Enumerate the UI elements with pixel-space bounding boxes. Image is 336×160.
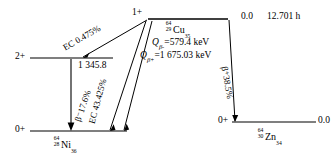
parent-element-symbol: Cu (173, 24, 185, 35)
right-daughter-za: 6430 (256, 129, 265, 140)
right-ground-energy: 0.0 (318, 116, 330, 126)
left-ground-spin-parity: 0+ (15, 125, 25, 135)
parent-nuclide-label: 6429Cu35 (164, 22, 190, 37)
left-daughter-za: 6428 (52, 137, 61, 148)
q-beta-minus-subscript: β- (159, 43, 164, 50)
q-beta-minus-value: =579.4 keV (164, 37, 209, 47)
right-daughter-nuclide-label: 6430Zn34 (256, 129, 282, 144)
excited-level-energy: 1 345.8 (78, 61, 107, 71)
q-beta-plus-symbol: Q (140, 50, 147, 60)
right-daughter-element-symbol: Zn (265, 131, 276, 142)
excited-level-spin-parity: 2+ (15, 52, 25, 62)
q-beta-minus-label: Qβ-=579.4 keV (152, 38, 209, 49)
q-beta-plus-value: =1 675.03 keV (155, 50, 212, 60)
left-daughter-element-symbol: Ni (61, 139, 71, 150)
q-beta-plus-label: Qβ+=1 675.03 keV (140, 51, 211, 62)
q-beta-minus-symbol: Q (152, 37, 159, 47)
right-daughter-atomic-number: 30 (256, 134, 265, 140)
parent-energy: 0.0 (241, 12, 253, 22)
parent-atomic-number: 29 (164, 27, 173, 33)
left-daughter-nuclide-label: 6428Ni36 (52, 137, 77, 152)
q-beta-plus-subscript: β+ (147, 56, 155, 63)
ec-to-excited-arrowhead (83, 52, 90, 58)
right-daughter-neutron-number: 34 (276, 140, 282, 146)
parent-spin-parity: 1+ (132, 8, 142, 18)
decay-scheme-diagram: 1+ 6429Cu35 0.0 12.701 h Qβ-=579.4 keV Q… (0, 0, 336, 160)
parent-nuclide-za: 6429 (164, 22, 173, 33)
left-daughter-atomic-number: 28 (52, 142, 61, 148)
left-daughter-neutron-number: 36 (71, 148, 77, 154)
beta-plus-arrowhead (232, 115, 238, 122)
gamma-arrowhead (68, 123, 75, 132)
right-ground-spin-parity: 0+ (218, 116, 228, 126)
parent-half-life: 12.701 h (267, 12, 300, 22)
